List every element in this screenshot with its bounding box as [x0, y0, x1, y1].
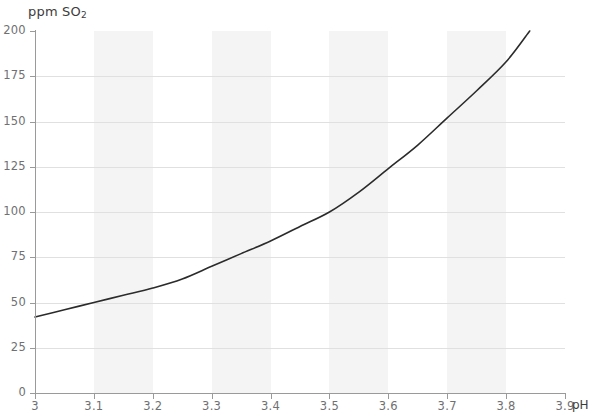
series-line-molecular-so2 — [35, 31, 530, 317]
x-tick-label: 3.6 — [368, 399, 408, 413]
y-tick-label: 25 — [0, 340, 26, 354]
data-curve-svg — [35, 31, 565, 393]
y-tick-label: 125 — [0, 159, 26, 173]
y-tick-mark — [30, 76, 36, 77]
x-tick-label: 3.5 — [309, 399, 349, 413]
y-tick-mark — [30, 122, 36, 123]
y-tick-label: 150 — [0, 114, 26, 128]
y-tick-label: 100 — [0, 204, 26, 218]
x-tick-label: 3 — [15, 399, 55, 413]
y-tick-mark — [30, 167, 36, 168]
x-tick-label: 3.2 — [133, 399, 173, 413]
x-tick-label: 3.1 — [74, 399, 114, 413]
x-tick-label: 3.3 — [192, 399, 232, 413]
y-tick-label: 75 — [0, 249, 26, 263]
y-tick-mark — [30, 212, 36, 213]
x-axis-line — [35, 393, 566, 394]
y-tick-mark — [30, 257, 36, 258]
y-tick-mark — [30, 348, 36, 349]
y-axis-title-subscript: 2 — [81, 10, 87, 20]
plot-area — [35, 31, 565, 393]
y-axis-title-text: ppm SO — [28, 4, 81, 19]
y-tick-mark — [30, 303, 36, 304]
x-axis-title: pH — [572, 398, 589, 412]
x-tick-label: 3.7 — [427, 399, 467, 413]
y-tick-label: 0 — [0, 385, 26, 399]
y-tick-mark — [30, 31, 36, 32]
x-tick-label: 3.8 — [486, 399, 526, 413]
y-axis-title: ppm SO2 — [28, 4, 87, 19]
chart-container: ppm SO2 2001751501251007550250 33.13.23.… — [0, 0, 597, 419]
y-tick-label: 50 — [0, 295, 26, 309]
x-tick-label: 3.4 — [251, 399, 291, 413]
y-tick-label: 200 — [0, 23, 26, 37]
y-tick-label: 175 — [0, 68, 26, 82]
